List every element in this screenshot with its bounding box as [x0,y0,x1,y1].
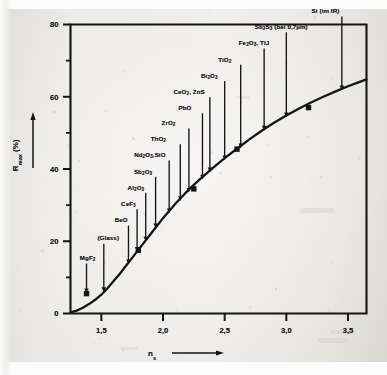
x-axis-title: ns [148,349,156,360]
material-label: MgF2 [80,255,96,262]
reflectance-chart [0,0,387,375]
material-label: Sb2O3 [134,169,152,176]
data-point-markers [84,105,311,296]
y-axis-title: Rmax (%) [11,125,22,185]
material-label: Si (im IR) [312,8,340,14]
material-label: PbO [178,105,191,111]
y-tick-label: 60 [0,93,59,102]
x-tick-label: 2,0 [143,326,183,335]
material-label: TiO2 [218,57,231,64]
annotation-leader-arrows [84,16,344,293]
y-tick-label: 20 [0,237,59,246]
x-tick-label: 2,5 [205,326,245,335]
x-tick-label: 3,0 [266,326,306,335]
material-label: Sb2S3 (bei 0,7µm) [255,24,308,31]
plot-frame [71,25,367,314]
material-label: Al2O3 [128,185,145,192]
x-tick-label: 3,5 [328,326,368,335]
material-label: CeO2, ZnS [173,89,204,96]
y-tick-label: 80 [0,20,59,29]
material-label: ZrO2 [162,120,176,127]
material-label: BeO [115,217,128,223]
material-label: ThO2 [151,136,166,143]
material-label: Bi2O3 [201,73,218,80]
y-tick-label: 40 [0,165,59,174]
x-axis-arrow [172,350,224,355]
x-tick-label: 1,5 [81,326,121,335]
material-label: CeF3 [121,201,136,208]
material-label: (Glass) [97,235,119,241]
material-label: Fe2O3, TlJ [239,40,270,47]
y-tick-label: 0 [0,309,59,318]
figure-root: Rmax (%) ns 0204060801,52,02,53,03,5 MgF… [0,0,387,375]
y-axis-arrow [30,112,35,168]
material-label: Nd2O3,SiO [134,152,165,159]
data-curve [71,79,367,312]
